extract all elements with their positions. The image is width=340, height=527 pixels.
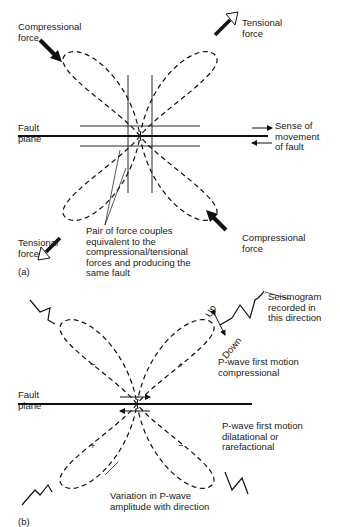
label-fault-plane-a: Fault plane [18, 123, 41, 144]
label-force-couples: Pair of force couples equivalent to the … [86, 226, 191, 279]
sign-bottom-left: + [90, 441, 96, 452]
label-compressional-force-top: Compressional force [18, 22, 81, 43]
sign-top-left: − [90, 360, 96, 371]
label-sense-of-movement: Sense of movement of fault [275, 121, 319, 153]
label-p-wave-compressional: P-wave first motion compressional [218, 357, 299, 378]
label-tensional-force-bottom: Tensional force [18, 238, 58, 259]
label-seismogram: Seismogram recorded in this direction [268, 292, 321, 324]
label-fault-plane-b: Fault plane [18, 390, 41, 411]
panel-a-label: (a) [18, 267, 30, 278]
sign-bottom-right: − [178, 441, 184, 452]
panel-b-label: (b) [18, 517, 30, 527]
sign-top-right: + [178, 360, 184, 371]
label-p-wave-dilatational: P-wave first motion dilatational or rare… [222, 421, 303, 453]
label-tensional-force-top: Tensional force [242, 18, 282, 39]
label-amplitude-variation: Variation in P-wave amplitude with direc… [110, 491, 209, 512]
label-compressional-force-bottom: Compressional force [242, 233, 305, 254]
